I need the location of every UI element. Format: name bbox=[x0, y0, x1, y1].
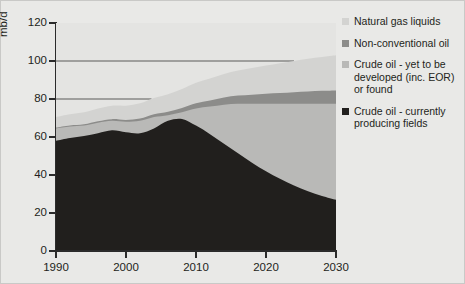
legend-item-label: Crude oil - currently producing fields bbox=[354, 105, 464, 130]
chart-legend: Natural gas liquidsNon-conventional oilC… bbox=[342, 15, 464, 139]
y-axis-tick-label: 60 bbox=[34, 131, 47, 142]
y-axis-tick-label: 120 bbox=[28, 17, 47, 28]
x-axis-tick bbox=[335, 252, 337, 258]
y-axis-tick-label: 40 bbox=[34, 169, 47, 180]
x-axis-tick-label: 2030 bbox=[323, 261, 349, 273]
chart-figure: mb/d 020406080100120 1990200020102020203… bbox=[0, 0, 465, 284]
x-axis-tick-label: 2000 bbox=[113, 261, 139, 273]
legend-item[interactable]: Non-conventional oil bbox=[342, 37, 464, 50]
y-axis-tick bbox=[49, 98, 56, 100]
plot-area bbox=[56, 23, 336, 251]
y-axis-tick bbox=[49, 136, 56, 138]
y-axis-tick-label: 80 bbox=[34, 93, 47, 104]
y-axis-tick bbox=[49, 174, 56, 176]
legend-swatch-icon bbox=[342, 61, 349, 68]
x-axis-tick-label: 2010 bbox=[183, 261, 209, 273]
y-axis-tick-label: 100 bbox=[28, 55, 47, 66]
x-axis-tick bbox=[195, 252, 197, 258]
y-axis-tick bbox=[49, 22, 56, 24]
x-axis-tick-label: 1990 bbox=[43, 261, 69, 273]
x-axis-tick-label: 2020 bbox=[253, 261, 279, 273]
legend-item[interactable]: Crude oil - currently producing fields bbox=[342, 105, 464, 130]
y-axis-tick-label: 0 bbox=[41, 245, 47, 256]
y-axis-labels: 020406080100120 bbox=[1, 1, 47, 284]
legend-swatch-icon bbox=[342, 108, 349, 115]
legend-item-label: Crude oil - yet to be developed (inc. EO… bbox=[354, 58, 464, 96]
legend-item[interactable]: Natural gas liquids bbox=[342, 15, 464, 28]
legend-item-label: Non-conventional oil bbox=[354, 37, 449, 50]
legend-item-label: Natural gas liquids bbox=[354, 15, 440, 28]
x-axis-tick bbox=[55, 252, 57, 258]
y-axis-tick bbox=[49, 60, 56, 62]
legend-swatch-icon bbox=[342, 40, 349, 47]
x-axis-tick bbox=[265, 252, 267, 258]
legend-swatch-icon bbox=[342, 18, 349, 25]
legend-item[interactable]: Crude oil - yet to be developed (inc. EO… bbox=[342, 58, 464, 96]
x-axis-tick bbox=[125, 252, 127, 258]
y-axis-tick bbox=[49, 212, 56, 214]
y-axis-tick-label: 20 bbox=[34, 207, 47, 218]
stacked-area-chart bbox=[56, 23, 336, 251]
